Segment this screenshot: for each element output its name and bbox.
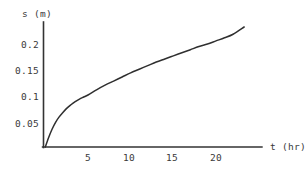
- x-tick-label: 20: [210, 152, 222, 163]
- x-tick-label: 10: [123, 152, 135, 163]
- x-tick-label: 15: [166, 152, 178, 163]
- chart-figure: 0.2 0.15 0.1 0.05 5 10 15 20 s (m) t (hr…: [0, 0, 305, 173]
- y-tick-label: 0.15: [15, 65, 39, 76]
- y-tick-label: 0.2: [21, 39, 39, 50]
- y-tick-label: 0.05: [15, 118, 39, 129]
- y-tick-label: 0.1: [21, 91, 39, 102]
- plot-area: 0.2 0.15 0.1 0.05 5 10 15 20 s (m) t (hr…: [0, 0, 305, 173]
- x-tick-label: 5: [85, 152, 91, 163]
- y-axis-title: s (m): [22, 8, 52, 19]
- x-axis-title: t (hr): [270, 141, 305, 152]
